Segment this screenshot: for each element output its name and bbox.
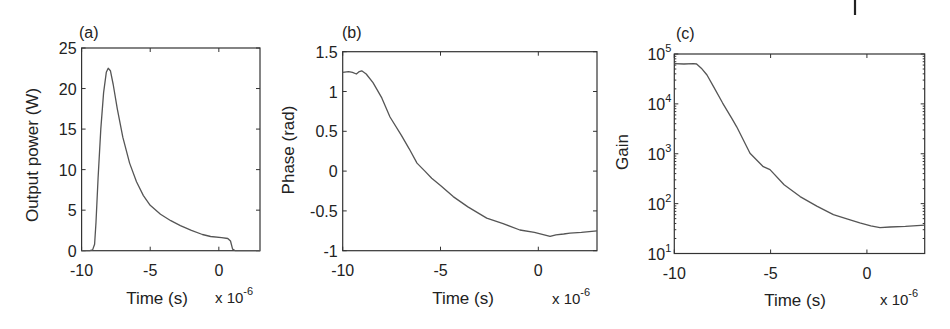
y-axis-label-c: Gain: [613, 134, 632, 170]
y-tick-label: 25: [59, 40, 77, 57]
y-tick-label: 0.5: [315, 123, 337, 140]
y-tick-label: 5: [68, 202, 77, 219]
tick-labels-c: -10-50101102103104105: [647, 42, 871, 282]
x-tick-label: 0: [214, 262, 223, 279]
curve-phase: [343, 71, 597, 237]
x-axis-label-c: Time (s): [764, 291, 826, 310]
panel-a-output-power: (a) -10-500510152025 Output power (W) Ti…: [23, 24, 260, 308]
y-tick-label: 102: [647, 192, 671, 213]
panel-label-b: (b): [342, 24, 362, 41]
axes-box-b: [343, 52, 597, 251]
x-tick-label: -5: [143, 262, 157, 279]
x-exponent-b: x 10-6: [552, 286, 590, 307]
x-tick-label: -5: [763, 265, 777, 282]
y-tick-label: 1.5: [315, 44, 337, 61]
curve-output-power: [82, 68, 260, 250]
x-tick-label: -10: [70, 262, 93, 279]
y-tick-label: -1: [323, 243, 337, 260]
y-tick-label: 0: [68, 243, 77, 260]
y-tick-label: 105: [647, 42, 671, 63]
y-tick-label: -0.5: [310, 203, 338, 220]
panel-label-c: (c): [676, 25, 695, 42]
figure: (a) -10-500510152025 Output power (W) Ti…: [0, 0, 950, 329]
y-tick-label: 20: [59, 81, 77, 98]
curve-gain: [674, 64, 924, 228]
x-axis-label-a: Time (s): [126, 289, 188, 308]
y-axis-label-a: Output power (W): [23, 88, 42, 222]
y-tick-label: 0: [329, 163, 338, 180]
tick-labels-a: -10-500510152025: [59, 40, 224, 279]
y-tick-label: 1: [329, 84, 338, 101]
y-tick-label: 101: [647, 242, 671, 263]
y-tick-label: 10: [59, 162, 77, 179]
x-axis-label-b: Time (s): [432, 289, 494, 308]
x-tick-label: -10: [331, 262, 354, 279]
x-exponent-c: x 10-6: [880, 287, 918, 308]
x-tick-label: 0: [534, 262, 543, 279]
panel-label-a: (a): [79, 24, 99, 41]
ticks-b: [343, 52, 597, 251]
y-axis-label-b: Phase (rad): [279, 106, 298, 195]
y-tick-label: 103: [647, 142, 671, 163]
panel-c-gain: (c) -10-50101102103104105 Gain Time (s) …: [613, 25, 925, 310]
x-tick-label: -5: [433, 262, 447, 279]
y-tick-label: 104: [647, 92, 671, 113]
y-tick-label: 15: [59, 121, 77, 138]
tick-labels-b: -10-50-1-0.500.511.5: [310, 44, 543, 279]
panel-b-phase: (b) -10-50-1-0.500.511.5 Phase (rad) Tim…: [279, 24, 597, 308]
x-tick-label: 0: [862, 265, 871, 282]
x-exponent-a: x 10-6: [215, 285, 253, 306]
x-tick-label: -10: [663, 265, 686, 282]
